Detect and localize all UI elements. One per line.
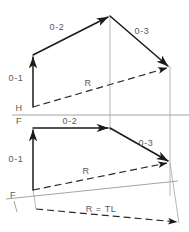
label-true-length-r-tl: R = TL	[86, 204, 117, 214]
label-fold-h: H	[16, 103, 23, 113]
vector-diagram-svg: 0-2 0-3 0-1 R H F 0-2 0-3 0-1 R F R = TL	[0, 0, 189, 232]
top-view-vector-0-2	[33, 17, 108, 55]
label-fold-f-auxiliary: F	[10, 190, 16, 200]
projection-line-aux-point3	[170, 163, 179, 223]
label-front-resultant-r: R	[82, 166, 89, 176]
projection-line-aux-origin	[33, 190, 36, 209]
top-view-vector-0-3	[110, 16, 168, 66]
label-fold-f: F	[16, 116, 22, 126]
label-top-0-2: 0-2	[50, 22, 65, 32]
diagram-canvas: 0-2 0-3 0-1 R H F 0-2 0-3 0-1 R F R = TL	[0, 0, 189, 232]
top-view-resultant-r	[33, 68, 167, 107]
fold-line-f-tick	[14, 201, 17, 212]
label-top-resultant-r: R	[84, 78, 91, 88]
label-front-0-2: 0-2	[63, 116, 78, 126]
label-top-0-1: 0-1	[9, 73, 24, 83]
label-top-0-3: 0-3	[135, 26, 150, 36]
front-view-resultant-r	[33, 163, 167, 190]
label-front-0-3: 0-3	[139, 138, 154, 148]
label-front-0-1: 0-1	[9, 154, 24, 164]
fold-line-f-auxiliary	[6, 181, 178, 199]
